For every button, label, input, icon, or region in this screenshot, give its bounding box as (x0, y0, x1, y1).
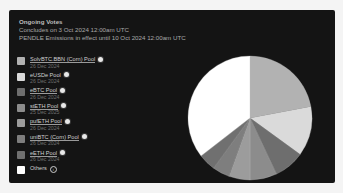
expiry-date: 26 Dec 2024 (30, 140, 59, 146)
token-badge-icon (64, 72, 69, 77)
expiry-date: 25 Dec 2025 (30, 109, 59, 115)
legend-swatch (17, 104, 25, 112)
token-badge-icon (60, 150, 65, 155)
pool-label: eUSDe Pool (30, 72, 61, 78)
header: Ongoing Votes Concludes on 3 Oct 2024 12… (19, 18, 186, 42)
emissions-text: PENDLE Emissions in effect until 10 Oct … (19, 34, 186, 42)
info-icon[interactable]: i (50, 166, 57, 173)
legend-swatch (17, 119, 25, 127)
card-title: Ongoing Votes (19, 18, 186, 26)
expiry-date: 26 Dec 2024 (30, 156, 59, 162)
legend-swatch (17, 88, 25, 96)
ongoing-votes-card: Ongoing Votes Concludes on 3 Oct 2024 12… (9, 10, 335, 183)
expiry-date: 26 Dec 2024 (30, 63, 59, 69)
token-badge-icon (82, 134, 87, 139)
token-badge-icon (65, 119, 70, 124)
legend-swatch (17, 57, 25, 65)
token-badge-icon (61, 103, 66, 108)
legend-swatch (17, 73, 25, 81)
expiry-date: 26 Dec 2024 (30, 94, 59, 100)
expiry-date: 26 Dec 2024 (30, 78, 59, 84)
token-badge-icon (98, 57, 103, 62)
legend-swatch (17, 166, 25, 174)
votes-pie-chart (185, 53, 315, 183)
legend-swatch (17, 151, 25, 159)
concludes-text: Concludes on 3 Oct 2024 12:00am UTC (19, 26, 186, 34)
others-label: Others (30, 165, 47, 171)
token-badge-icon (60, 88, 65, 93)
legend-swatch (17, 135, 25, 143)
expiry-date: 26 Dec 2024 (30, 125, 59, 131)
